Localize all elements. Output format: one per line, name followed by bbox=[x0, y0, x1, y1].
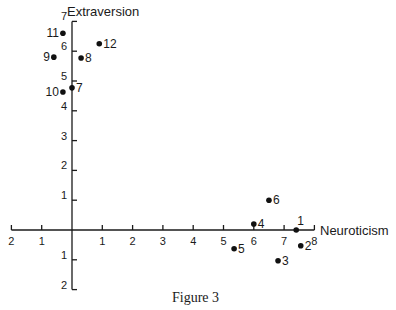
point-label: 3 bbox=[282, 254, 289, 268]
y-tick-label: 5 bbox=[61, 70, 67, 82]
data-point: 8 bbox=[78, 51, 92, 65]
point-label: 11 bbox=[46, 26, 59, 40]
data-point: 12 bbox=[96, 37, 116, 51]
point-marker bbox=[293, 227, 299, 233]
data-point: 5 bbox=[231, 242, 245, 256]
point-marker bbox=[51, 54, 57, 60]
x-tick-label: 5 bbox=[220, 235, 226, 247]
point-marker bbox=[298, 243, 304, 249]
y-axis-title: Extraversion bbox=[67, 4, 139, 19]
x-tick-label: 2 bbox=[130, 235, 136, 247]
point-marker bbox=[60, 31, 66, 37]
point-label: 8 bbox=[85, 51, 92, 65]
data-point: 11 bbox=[46, 26, 65, 40]
x-tick-label: 8 bbox=[311, 235, 317, 247]
x-tick-label: 7 bbox=[281, 235, 287, 247]
point-marker bbox=[231, 246, 237, 252]
point-label: 9 bbox=[43, 50, 50, 64]
point-marker bbox=[251, 221, 257, 227]
axes bbox=[11, 21, 314, 289]
point-label: 4 bbox=[258, 217, 265, 231]
point-marker bbox=[69, 85, 75, 91]
y-tick-label: 1 bbox=[61, 189, 67, 201]
data-point: 4 bbox=[251, 217, 265, 231]
point-marker bbox=[96, 41, 102, 47]
x-tick-label: 3 bbox=[160, 235, 166, 247]
data-point: 2 bbox=[298, 239, 312, 253]
point-marker bbox=[275, 258, 281, 264]
x-tick-label: 6 bbox=[251, 235, 257, 247]
y-tick-label: 6 bbox=[61, 40, 67, 52]
data-point: 6 bbox=[266, 193, 280, 207]
x-tick-label: 1 bbox=[99, 235, 105, 247]
data-point: 7 bbox=[69, 81, 83, 95]
y-tick-label: 1 bbox=[61, 249, 67, 261]
x-tick-label: 4 bbox=[190, 235, 196, 247]
point-label: 1 bbox=[297, 214, 304, 228]
point-label: 5 bbox=[238, 242, 245, 256]
point-label: 10 bbox=[46, 85, 60, 99]
point-label: 6 bbox=[273, 193, 280, 207]
point-label: 2 bbox=[305, 239, 312, 253]
point-label: 7 bbox=[76, 81, 83, 95]
x-tick-label: 1 bbox=[39, 235, 45, 247]
ticks: 2112345678211234567 bbox=[8, 10, 317, 290]
y-tick-label: 2 bbox=[61, 279, 67, 291]
x-tick-label: 2 bbox=[8, 235, 14, 247]
x-axis-title: Neuroticism bbox=[320, 223, 389, 238]
point-label: 12 bbox=[103, 37, 117, 51]
y-tick-label: 2 bbox=[61, 159, 67, 171]
data-points: 123456789101112 bbox=[43, 26, 312, 267]
figure-caption: Figure 3 bbox=[172, 290, 219, 305]
y-tick-label: 4 bbox=[61, 100, 67, 112]
point-marker bbox=[78, 55, 84, 61]
scatter-chart: 2112345678211234567 123456789101112 Neur… bbox=[0, 0, 396, 310]
data-point: 9 bbox=[43, 50, 56, 64]
point-marker bbox=[266, 197, 272, 203]
point-marker bbox=[60, 89, 66, 95]
y-tick-label: 3 bbox=[61, 130, 67, 142]
data-point: 3 bbox=[275, 254, 289, 268]
data-point: 10 bbox=[46, 85, 66, 99]
